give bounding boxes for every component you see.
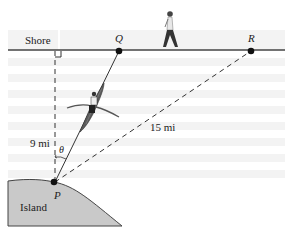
point-q bbox=[116, 48, 123, 55]
island-label: Island bbox=[20, 201, 47, 213]
distance-15mi-label: 15 mi bbox=[150, 121, 175, 133]
pr-dashed-line bbox=[55, 51, 251, 182]
boat-shore-diagram: Shore Q R P Island 9 mi 15 mi θ bbox=[0, 0, 290, 231]
theta-label: θ bbox=[59, 144, 64, 155]
point-q-label: Q bbox=[115, 32, 123, 44]
shore-label: Shore bbox=[25, 34, 51, 46]
point-r-label: R bbox=[247, 32, 255, 44]
point-p-label: P bbox=[53, 189, 61, 201]
distance-9mi-label: 9 mi bbox=[30, 137, 50, 149]
water-stripes bbox=[8, 30, 285, 178]
point-p bbox=[51, 179, 58, 186]
right-angle-marker bbox=[55, 51, 61, 57]
point-r bbox=[248, 48, 255, 55]
